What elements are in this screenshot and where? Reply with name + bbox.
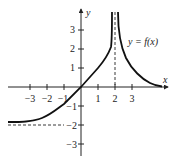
curve-label: y = f(x)	[127, 36, 159, 48]
x-tick-label: −2	[42, 93, 53, 104]
y-tick-label: −2	[66, 120, 77, 131]
x-tick-label: 1	[96, 93, 101, 104]
y-axis-label: y	[85, 7, 91, 18]
curve-right-branch	[118, 12, 162, 87]
y-tick-label: −3	[66, 139, 77, 150]
y-tick-label: 3	[70, 24, 75, 35]
x-tick-label: −3	[25, 93, 36, 104]
curve-left-branch	[8, 12, 112, 122]
function-graph: −3 −2 −1 1 2 3 3 2 1 −1 −2 −3 x y y = f(…	[0, 0, 173, 160]
x-tick-label: 2	[113, 93, 118, 104]
x-tick-label: 3	[130, 93, 135, 104]
x-axis-label: x	[162, 74, 168, 85]
x-tick-labels: −3 −2 −1 1 2 3	[25, 93, 135, 104]
y-tick-label: 2	[70, 43, 75, 54]
y-tick-label: 1	[70, 62, 75, 73]
y-tick-label: −1	[66, 101, 77, 112]
